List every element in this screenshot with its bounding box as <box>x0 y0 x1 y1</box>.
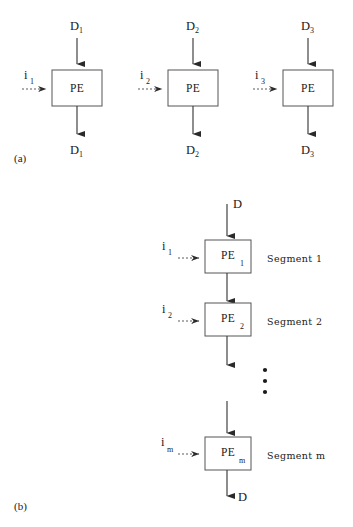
panel-a-unit-3-top-input-label: D <box>301 19 310 33</box>
panel-a-caption: (a) <box>14 152 27 165</box>
panel-a-pe-box-1-label: PE <box>70 82 84 94</box>
panel-b-segment-label-2: Segment 2 <box>267 316 322 327</box>
panel-b-bottom-output-label: D <box>238 490 247 504</box>
panel-b-top-input-label: D <box>233 197 242 211</box>
panel-a-unit-1-output-label: D <box>70 143 79 157</box>
panel-b-pe-box-m-label: PE <box>221 446 235 458</box>
figure-root: D 1 i 1 PE D 1 D 2 i 2 PE D 2 D 3 i 3 PE <box>0 0 353 527</box>
panel-b-pe-box-2-label: PE <box>221 312 235 324</box>
panel-a-unit-1-top-input-label: D <box>70 19 79 33</box>
panel-b-stage-2-side-input-subscript: 2 <box>168 311 172 320</box>
panel-a-unit-3-top-input-subscript: 3 <box>310 26 314 35</box>
panel-b-stage-m-side-input-label: i <box>161 435 165 449</box>
panel-a-unit-2-top-input-label: D <box>186 19 195 33</box>
panel-a-unit-1-side-input-subscript: 1 <box>30 77 34 86</box>
panel-a-unit-2-output-label: D <box>186 143 195 157</box>
panel-a-unit-1-side-input-label: i <box>24 68 28 82</box>
panel-a-unit-2-side-input-subscript: 2 <box>146 77 150 86</box>
panel-b-pe-box-1-label: PE <box>221 249 235 261</box>
panel-b-pe-box-1-subscript: 1 <box>240 259 244 268</box>
panel-a-unit-1-output-subscript: 1 <box>79 150 83 159</box>
panel-b-stage-2-side-input-label: i <box>162 302 166 316</box>
panel-a-unit-1-top-input-subscript: 1 <box>79 26 83 35</box>
panel-a-unit-3-side-input-label: i <box>255 68 259 82</box>
panel-a-pe-box-3-label: PE <box>301 82 315 94</box>
panel-a-unit-2-top-input-subscript: 2 <box>195 26 199 35</box>
panel-b-pe-box-m-subscript: m <box>239 456 246 465</box>
panel-b-segment-label-m: Segment m <box>267 450 325 461</box>
panel-b-vertical-ellipsis <box>263 368 267 394</box>
panel-b-caption: (b) <box>14 500 27 513</box>
panel-b-stage-1-side-input-subscript: 1 <box>168 248 172 257</box>
panel-b-segment-label-1: Segment 1 <box>267 253 322 264</box>
panel-a-unit-3-output-subscript: 3 <box>310 150 314 159</box>
panel-a-unit-2-side-input-label: i <box>140 68 144 82</box>
panel-b-stage-m-side-input-subscript: m <box>167 445 174 454</box>
block-diagram: D 1 i 1 PE D 1 D 2 i 2 PE D 2 D 3 i 3 PE <box>0 0 353 527</box>
panel-b-stage-1-side-input-label: i <box>162 239 166 253</box>
panel-a-unit-3-side-input-subscript: 3 <box>261 77 265 86</box>
panel-a-pe-box-2-label: PE <box>186 82 200 94</box>
panel-a-unit-2-output-subscript: 2 <box>195 150 199 159</box>
panel-b-pe-box-2-subscript: 2 <box>240 322 244 331</box>
panel-a-unit-3-output-label: D <box>301 143 310 157</box>
